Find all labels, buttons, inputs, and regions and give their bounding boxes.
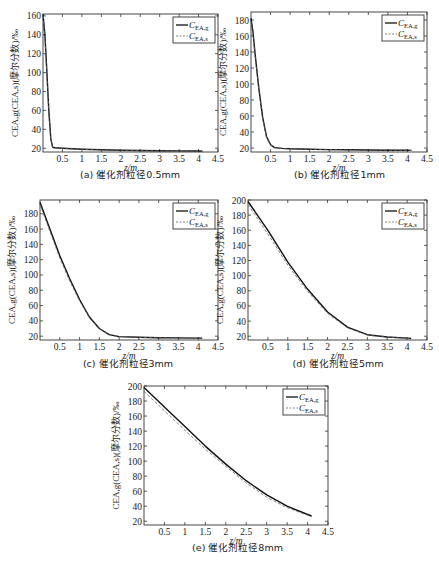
y-tick-label: 200 (232, 196, 247, 206)
y-tick-label: 180 (24, 209, 39, 219)
x-tick-label: 3.5 (381, 342, 393, 352)
caption-c: (c) 催化剂粒径3mm (38, 356, 218, 370)
y-tick-label: 140 (128, 427, 143, 437)
y-tick-label: 140 (27, 30, 42, 40)
y-tick-label: 40 (133, 502, 143, 512)
y-axis-label: CEA,g(CEA,s)(摩尔分数)/‰ (9, 29, 20, 137)
x-tick-label: 1 (288, 154, 293, 164)
y-tick-label: 180 (128, 397, 143, 407)
x-tick-label: 2 (223, 527, 228, 537)
caption-a: (a) 催化剂粒径0.5mm (40, 167, 220, 181)
y-tick-label: 40 (32, 125, 42, 135)
x-tick-label: 3 (365, 342, 370, 352)
x-tick-label: 4 (196, 342, 201, 352)
x-tick-label: 0.5 (262, 342, 274, 352)
x-tick-label: 4 (305, 527, 310, 537)
x-tick-label: 2 (117, 342, 122, 352)
y-tick-label: 100 (24, 270, 39, 280)
x-tick-label: 2 (325, 342, 330, 352)
y-tick-label: 100 (27, 68, 42, 78)
y-tick-label: 140 (232, 241, 247, 251)
x-tick-label: 1.5 (302, 342, 314, 352)
y-tick-label: 60 (32, 106, 42, 116)
legend: CEA,gCEA,s (173, 17, 215, 43)
y-tick-label: 20 (237, 332, 247, 342)
y-tick-label: 20 (32, 144, 42, 154)
x-tick-label: 1 (80, 154, 85, 164)
x-tick-label: 4 (405, 342, 410, 352)
chart-panel-b: 0.511.522.533.544.5z/m204060801001201401… (220, 0, 439, 185)
y-axis-label: CEA,g(CEA,s)(摩尔分数)/‰ (110, 402, 121, 510)
line-chart-d: 0.511.522.533.544.5z/m204060801001201401… (215, 185, 439, 360)
y-tick-label: 140 (24, 240, 39, 250)
line-chart-c: 0.511.522.533.544.5z/m204060801001201401… (0, 185, 220, 360)
x-tick-label: 3.5 (382, 154, 394, 164)
line-chart-a: 0.511.522.533.544.5z/m204060801001201401… (0, 0, 220, 170)
chart-panel-e: 0.511.522.533.544.5z/m204060801001201401… (100, 370, 340, 565)
y-tick-label: 80 (237, 286, 247, 296)
y-tick-label: 40 (240, 128, 250, 138)
caption-b: (b) 催化剂粒径1mm (252, 167, 427, 181)
y-tick-label: 140 (235, 48, 250, 58)
x-tick-label: 1 (285, 342, 290, 352)
caption-d: (d) 催化剂粒径5mm (248, 356, 428, 370)
x-tick-label: 1.5 (95, 154, 107, 164)
caption-e: (e) 催化剂粒径8mm (145, 540, 330, 554)
x-tick-label: 3.5 (173, 154, 185, 164)
legend: CEA,gCEA,s (173, 203, 215, 229)
x-tick-label: 1 (183, 527, 188, 537)
y-tick-label: 180 (235, 16, 250, 26)
y-tick-label: 160 (235, 32, 250, 42)
y-tick-label: 60 (29, 301, 39, 311)
y-tick-label: 120 (235, 64, 250, 74)
x-tick-label: 1.5 (304, 154, 316, 164)
chart-panel-c: 0.511.522.533.544.5z/m204060801001201401… (0, 185, 220, 370)
y-tick-label: 20 (133, 517, 143, 527)
x-tick-label: 0.5 (159, 527, 171, 537)
y-tick-label: 60 (240, 112, 250, 122)
x-tick-label: 4.5 (322, 527, 334, 537)
y-tick-label: 20 (240, 144, 250, 154)
y-tick-label: 160 (27, 11, 42, 21)
y-tick-label: 200 (128, 382, 143, 392)
x-tick-label: 0.5 (265, 154, 277, 164)
x-tick-label: 0.5 (57, 154, 69, 164)
y-tick-label: 80 (32, 87, 42, 97)
x-tick-label: 3.5 (281, 527, 293, 537)
legend: CEA,gCEA,s (283, 389, 325, 415)
y-axis-label: CEA,g(CEA,s)(摩尔分数)/‰ (217, 28, 228, 136)
x-tick-label: 2 (327, 154, 332, 164)
x-tick-label: 3.5 (173, 342, 185, 352)
y-tick-label: 120 (24, 255, 39, 265)
y-tick-label: 120 (128, 442, 143, 452)
y-axis-label: CEA,g(CEA,s)(摩尔分数)/‰ (6, 216, 17, 324)
y-tick-label: 100 (235, 80, 250, 90)
y-tick-label: 80 (240, 96, 250, 106)
x-tick-label: 0.5 (54, 342, 66, 352)
y-tick-label: 40 (29, 316, 39, 326)
x-tick-label: 2 (118, 154, 123, 164)
x-tick-label: 4 (405, 154, 410, 164)
y-tick-label: 100 (232, 271, 247, 281)
y-tick-label: 180 (232, 211, 247, 221)
x-tick-label: 3 (366, 154, 371, 164)
y-tick-label: 60 (237, 301, 247, 311)
x-tick-label: 1.5 (199, 527, 211, 537)
y-tick-label: 40 (237, 317, 247, 327)
line-chart-e: 0.511.522.533.544.5z/m204060801001201401… (100, 370, 340, 545)
y-tick-label: 160 (24, 225, 39, 235)
x-tick-label: 1 (77, 342, 82, 352)
chart-panel-a: 0.511.522.533.544.5z/m204060801001201401… (0, 0, 220, 185)
y-axis-label: CEA,g(CEA,s)(摩尔分数)/‰ (214, 216, 225, 324)
y-tick-label: 80 (133, 472, 143, 482)
y-tick-label: 20 (29, 332, 39, 342)
y-tick-label: 80 (29, 286, 39, 296)
x-tick-label: 3 (157, 154, 162, 164)
y-tick-label: 160 (232, 226, 247, 236)
y-tick-label: 100 (128, 457, 143, 467)
y-tick-label: 60 (133, 487, 143, 497)
x-tick-label: 4.5 (421, 342, 433, 352)
legend: CEA,gCEA,s (382, 15, 424, 41)
x-tick-label: 4 (196, 154, 201, 164)
chart-panel-d: 0.511.522.533.544.5z/m204060801001201401… (215, 185, 439, 370)
